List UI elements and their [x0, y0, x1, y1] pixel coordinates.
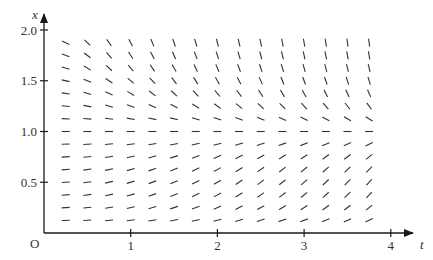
slope-segment: [325, 64, 327, 72]
t-tick-label: 2: [214, 238, 221, 253]
slope-segment: [260, 39, 262, 47]
slope-segment: [282, 39, 283, 47]
slope-segment: [322, 143, 329, 146]
slope-segment: [150, 65, 154, 72]
slope-segment: [235, 143, 243, 145]
x-tick-label: 0.5: [21, 175, 37, 190]
slope-segment: [194, 52, 197, 59]
slope-segment: [216, 52, 218, 60]
slope-segment: [279, 155, 286, 159]
origin-label: O: [30, 236, 39, 251]
slope-segment: [323, 155, 330, 160]
slope-segment: [62, 67, 70, 69]
slope-segment: [84, 79, 91, 82]
slope-segment: [149, 91, 155, 96]
slope-segment: [105, 105, 113, 107]
slope-segment: [149, 194, 157, 197]
slope-segment: [322, 117, 329, 121]
slope-segment: [171, 91, 177, 96]
slope-segment: [195, 39, 197, 47]
slope-segment: [170, 181, 177, 184]
slope-segment: [300, 143, 307, 146]
slope-segment: [170, 118, 178, 120]
slope-segment: [281, 77, 284, 84]
slope-segment: [258, 180, 264, 185]
slope-segment: [368, 64, 370, 72]
slope-segment: [62, 195, 70, 196]
slope-segment: [127, 105, 135, 108]
slope-segment: [62, 169, 70, 170]
x-tick-label: 2.0: [21, 23, 37, 38]
slope-segment: [235, 117, 243, 120]
slope-segment: [214, 104, 220, 109]
slope-segment: [62, 93, 70, 94]
slope-segment: [214, 219, 222, 221]
slope-segment: [257, 206, 264, 210]
slope-segment: [148, 220, 156, 221]
slope-segment: [281, 64, 283, 72]
slope-segment: [301, 180, 307, 185]
slope-segment: [279, 219, 287, 222]
slope-segment: [366, 192, 372, 198]
slope-segment: [128, 78, 134, 83]
slope-segment: [345, 167, 351, 173]
slope-segment: [216, 64, 219, 71]
slope-segment: [149, 181, 157, 184]
slope-segment: [237, 90, 242, 96]
slope-segment: [107, 39, 112, 46]
slope-segment: [84, 66, 91, 70]
slope-segment: [344, 154, 350, 159]
slope-segment: [303, 64, 305, 72]
slope-segment: [105, 92, 112, 95]
t-tick-label: 1: [127, 238, 134, 253]
slope-segment: [279, 167, 285, 172]
slope-segment: [257, 193, 264, 198]
slope-segment: [84, 53, 90, 58]
slope-segment: [83, 144, 91, 145]
slope-segment: [323, 103, 328, 109]
slope-segment: [149, 156, 157, 158]
t-axis-label: t: [420, 237, 424, 252]
slope-segment: [171, 104, 178, 108]
slope-segment: [303, 39, 304, 47]
slope-segment: [105, 181, 113, 183]
x-tick-label: 1.5: [21, 73, 37, 88]
slope-segment: [344, 117, 351, 121]
slope-segment: [83, 220, 91, 221]
slope-segment: [192, 219, 200, 221]
slope-segment: [236, 167, 243, 171]
slope-segment: [302, 90, 306, 97]
slope-segment: [83, 105, 91, 106]
slope-segment: [257, 117, 264, 120]
slope-segment: [106, 79, 113, 83]
slope-segment: [127, 91, 134, 95]
slope-segment: [344, 143, 351, 146]
slope-segment: [215, 90, 220, 96]
slope-segment: [105, 220, 113, 221]
slope-segment: [151, 39, 154, 46]
slope-segment: [237, 77, 241, 84]
slope-segment: [127, 144, 135, 145]
slope-segment: [301, 155, 308, 159]
slope-segment: [216, 39, 218, 47]
slope-segment: [279, 180, 285, 185]
slope-segment: [129, 52, 133, 59]
slope-segment: [235, 206, 242, 210]
slope-segment: [83, 156, 91, 157]
slope-segment: [323, 167, 329, 172]
slope-segment: [236, 104, 242, 109]
slope-segment: [345, 103, 350, 109]
slope-segment: [192, 193, 199, 196]
slope-segment: [172, 65, 176, 72]
slope-segment: [127, 169, 135, 171]
slope-segment: [214, 168, 221, 172]
slope-segment: [367, 103, 372, 109]
slope-segment: [105, 156, 113, 157]
slope-segment: [106, 65, 112, 70]
slope-segment: [325, 51, 327, 59]
slope-segment: [62, 41, 69, 44]
slope-segment: [366, 179, 371, 185]
slope-segment: [280, 90, 284, 97]
slope-segment: [62, 106, 70, 107]
slope-segment: [83, 194, 91, 195]
